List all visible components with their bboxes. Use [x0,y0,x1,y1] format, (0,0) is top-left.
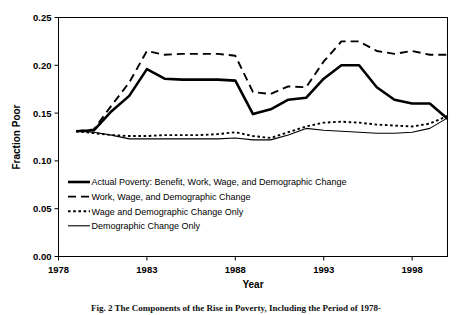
legend-label-2: Wage and Demographic Change Only [92,207,244,217]
x-tick-label: 1988 [225,264,246,275]
x-tick-label: 1983 [136,264,157,275]
y-tick-label: 0.05 [33,203,52,214]
y-tick-label: 0.00 [33,251,52,262]
y-axis-title: Fraction Poor [11,104,22,169]
y-tick-label: 0.25 [33,12,52,23]
x-tick-label: 1998 [402,264,423,275]
legend-label-0: Actual Poverty: Benefit, Work, Wage, and… [92,177,347,187]
y-tick-label: 0.15 [33,108,52,119]
y-tick-label: 0.20 [33,60,52,71]
x-tick-label: 1993 [313,264,334,275]
y-tick-label: 0.10 [33,155,52,166]
x-tick-label: 1978 [48,264,69,275]
x-axis-title: Year [242,279,263,290]
poverty-components-line-chart: 0.000.050.100.150.200.25 197819831988199… [0,0,472,315]
figure-caption: Fig. 2 The Components of the Rise in Pov… [0,303,472,313]
legend-label-3: Demographic Change Only [92,221,201,231]
figure-container: 0.000.050.100.150.200.25 197819831988199… [0,0,472,315]
legend-label-1: Work, Wage, and Demographic Change [92,192,251,202]
